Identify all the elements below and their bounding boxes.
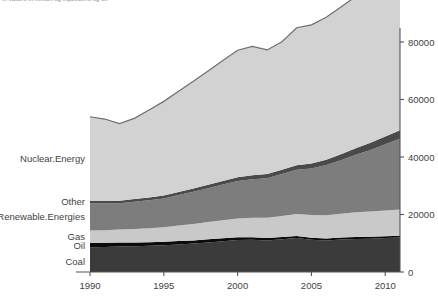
y-tick-label: 20000 <box>408 209 434 220</box>
x-tick-label: 1995 <box>153 280 174 291</box>
series-label-Gas: Gas <box>68 231 86 242</box>
x-tick-label: 2000 <box>227 280 248 291</box>
series-label-Other: Other <box>61 196 85 207</box>
y-tick-label: 0 <box>408 267 413 278</box>
y-tick-label-group: 020000400006000080000 <box>400 37 434 278</box>
series-label-Nuclear.Energy: Nuclear.Energy <box>20 153 85 164</box>
y-tick-label: 80000 <box>408 37 434 48</box>
x-tick-label: 2005 <box>301 280 322 291</box>
chart-canvas: 020000400006000080000 199019952000200520… <box>0 0 438 300</box>
y-tick-label: 60000 <box>408 94 434 105</box>
series-label-Renewable.Energies: Renewable.Energies <box>0 211 85 222</box>
area-series-group <box>90 0 400 272</box>
series-label-Coal: Coal <box>65 256 85 267</box>
x-tick-label: 2010 <box>375 280 396 291</box>
x-tick-label: 1990 <box>79 280 100 291</box>
series-label-group: CoalOilGasRenewable.EnergiesOtherNuclear… <box>0 153 85 267</box>
y-tick-label: 40000 <box>408 152 434 163</box>
x-tick-label-group: 19901995200020052010 <box>79 272 395 291</box>
stacked-area-chart: in values in million kg equivalent kg oi… <box>0 0 438 300</box>
